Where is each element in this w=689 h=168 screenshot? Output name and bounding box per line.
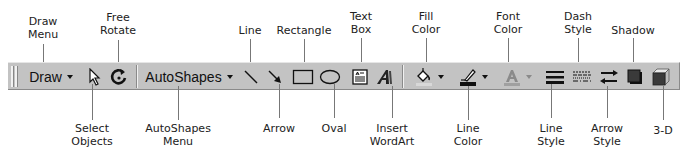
toolbar-grip-handle[interactable] — [11, 66, 14, 87]
leader-line — [468, 86, 469, 120]
font-color-button[interactable] — [498, 66, 536, 87]
chevron-down-icon[interactable] — [438, 75, 444, 79]
callout-arrow-style: Arrow Style — [591, 122, 623, 148]
dash-style-button[interactable] — [570, 66, 594, 87]
toolbar-separator — [402, 65, 404, 88]
rectangle-icon — [292, 69, 314, 85]
arrow-button[interactable] — [264, 66, 286, 87]
chevron-down-icon[interactable] — [482, 75, 488, 79]
autoshapes-menu-button[interactable]: AutoShapes — [143, 66, 235, 87]
leader-line — [392, 86, 393, 118]
wordart-icon — [376, 68, 394, 86]
drawing-toolbar: Draw AutoShapes — [8, 62, 680, 90]
callout-arrow: Arrow — [263, 122, 295, 135]
text-box-button[interactable] — [349, 66, 371, 87]
callout-line-color: Line Color — [454, 122, 483, 148]
leader-line — [663, 86, 664, 120]
callout-font-color: Font Color — [494, 10, 523, 36]
arrow-icon — [267, 69, 283, 85]
line-color-button[interactable] — [454, 66, 492, 87]
callout-autoshapes-menu: AutoShapes Menu — [145, 122, 211, 148]
oval-button[interactable] — [318, 66, 342, 87]
insert-wordart-button[interactable] — [374, 66, 396, 87]
draw-menu-label: Draw — [29, 69, 62, 85]
line-button[interactable] — [240, 66, 262, 87]
line-icon — [243, 69, 259, 85]
leader-line — [92, 84, 93, 120]
callout-text-box: Text Box — [350, 10, 372, 36]
font-a-icon — [503, 68, 521, 86]
select-objects-button[interactable] — [84, 66, 106, 87]
callout-fill-color: Fill Color — [412, 10, 441, 36]
paint-bucket-icon — [415, 68, 433, 86]
pen-icon — [459, 68, 477, 86]
dash-style-icon — [572, 69, 592, 85]
rectangle-button[interactable] — [291, 66, 315, 87]
callout-select-objects: Select Objects — [71, 122, 113, 148]
leader-line — [334, 84, 335, 118]
autoshapes-menu-label: AutoShapes — [145, 69, 221, 85]
chevron-down-icon[interactable] — [526, 75, 532, 79]
callout-free-rotate: Free Rotate — [100, 11, 136, 37]
callout-3d: 3-D — [653, 124, 672, 137]
chevron-down-icon — [67, 75, 73, 79]
leader-line — [178, 86, 179, 120]
leader-line — [279, 84, 280, 118]
text-box-icon — [352, 69, 368, 85]
callout-draw-menu: Draw Menu — [28, 15, 58, 41]
toolbar-grip-handle[interactable] — [15, 66, 18, 87]
rotate-icon — [110, 68, 128, 86]
callout-dash-style: Dash Style — [564, 10, 592, 36]
oval-icon — [319, 69, 341, 85]
callout-line-style: Line Style — [537, 122, 565, 148]
free-rotate-button[interactable] — [108, 66, 130, 87]
callout-insert-wordart: Insert WordArt — [370, 122, 415, 148]
callout-shadow: Shadow — [611, 24, 654, 37]
leader-line — [551, 84, 552, 118]
callout-oval: Oval — [322, 122, 347, 135]
3d-button[interactable] — [649, 66, 673, 87]
line-style-icon — [545, 69, 565, 85]
callout-line: Line — [239, 24, 262, 37]
shadow-button[interactable] — [624, 66, 646, 87]
toolbar-separator — [136, 65, 138, 88]
leader-line — [607, 86, 608, 118]
fill-color-button[interactable] — [410, 66, 448, 87]
callout-rectangle: Rectangle — [277, 24, 332, 37]
arrow-style-icon — [599, 68, 619, 86]
arrow-style-button[interactable] — [597, 66, 621, 87]
shadow-icon — [626, 68, 644, 86]
draw-menu-button[interactable]: Draw — [25, 66, 77, 87]
chevron-down-icon — [227, 75, 233, 79]
pointer-arrow-icon — [88, 68, 102, 86]
cube-icon — [651, 67, 671, 87]
line-style-button[interactable] — [543, 66, 567, 87]
